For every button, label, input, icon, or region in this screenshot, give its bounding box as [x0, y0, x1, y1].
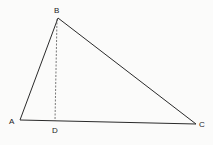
side-ac — [20, 120, 196, 124]
vertex-label-a: A — [9, 117, 15, 126]
triangle-svg: B A D C — [0, 0, 213, 145]
vertex-label-c: C — [199, 120, 205, 129]
vertex-label-d: D — [52, 126, 58, 135]
side-bc — [58, 18, 196, 124]
side-ab — [20, 18, 58, 120]
altitude-bd — [55, 19, 57, 121]
triangle-diagram: B A D C — [0, 0, 213, 145]
vertex-label-b: B — [54, 6, 59, 15]
